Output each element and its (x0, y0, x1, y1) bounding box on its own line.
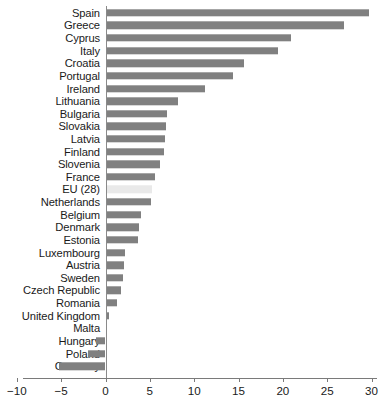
bar-label-portugal: Portugal (59, 70, 100, 82)
bar-label-malta: Malta (73, 322, 100, 334)
bar-sweden (106, 274, 124, 281)
bar-label-sweden: Sweden (60, 272, 100, 284)
bar-label-estonia: Estonia (63, 234, 100, 246)
bar-poland (88, 350, 106, 357)
bar-lithuania (106, 97, 179, 104)
bar-row: Netherlands (0, 196, 390, 209)
bar-row: Italy (0, 44, 390, 57)
bar-spain (106, 9, 369, 16)
bar-eu-28 (106, 186, 152, 193)
x-tick-mark (372, 378, 373, 382)
bar-row: Poland (0, 347, 390, 360)
bar-france (106, 173, 156, 180)
bar-label-luxembourg: Luxembourg (39, 247, 100, 259)
bar-row: Luxembourg (0, 246, 390, 259)
bar-row: Hungary (0, 335, 390, 348)
bar-italy (106, 47, 278, 54)
bar-label-finland: Finland (64, 146, 100, 158)
bar-row: Czech Republic (0, 284, 390, 297)
bar-row: Romania (0, 297, 390, 310)
x-tick-label: −5 (55, 384, 68, 398)
bar-row: Denmark (0, 221, 390, 234)
x-tick-label: 25 (321, 384, 334, 398)
bar-label-bulgaria: Bulgaria (60, 108, 100, 120)
bar-denmark (106, 224, 140, 231)
bar-row: Germany (0, 360, 390, 373)
bar-label-hungary: Hungary (58, 335, 100, 347)
bar-belgium (106, 211, 141, 218)
bar-label-romania: Romania (56, 297, 100, 309)
bar-row: Belgium (0, 208, 390, 221)
bar-label-netherlands: Netherlands (41, 196, 100, 208)
bar-row: Greece (0, 19, 390, 32)
bar-cyprus (106, 34, 291, 41)
bar-row: Cyprus (0, 32, 390, 45)
bar-label-cyprus: Cyprus (65, 32, 100, 44)
bar-croatia (106, 60, 244, 67)
x-tick-mark (239, 378, 240, 382)
bar-latvia (106, 135, 165, 142)
plot-area: SpainGreeceCyprusItalyCroatiaPortugalIre… (0, 0, 390, 406)
x-tick-mark (17, 378, 18, 382)
x-tick-label: 30 (365, 384, 378, 398)
bar-row: Spain (0, 7, 390, 20)
bar-label-czech-republic: Czech Republic (23, 284, 100, 296)
bar-finland (106, 148, 165, 155)
bar-row: Latvia (0, 133, 390, 146)
bar-bulgaria (106, 110, 167, 117)
x-tick-label: 20 (276, 384, 289, 398)
bar-row: Austria (0, 259, 390, 272)
x-tick-label: 10 (188, 384, 201, 398)
bar-czech-republic (106, 287, 122, 294)
bar-row: Portugal (0, 70, 390, 83)
bar-row: Finland (0, 145, 390, 158)
bar-portugal (106, 72, 234, 79)
bar-label-slovakia: Slovakia (59, 120, 101, 132)
x-tick-label: 0 (102, 384, 108, 398)
bar-label-denmark: Denmark (55, 221, 100, 233)
x-tick-label: 5 (147, 384, 153, 398)
x-tick-mark (194, 378, 195, 382)
bar-label-ireland: Ireland (66, 83, 100, 95)
zero-axis-line (106, 6, 107, 378)
bar-row: Slovakia (0, 120, 390, 133)
bar-label-latvia: Latvia (71, 133, 100, 145)
bar-label-austria: Austria (66, 259, 100, 271)
x-tick-mark (283, 378, 284, 382)
bar-ireland (106, 85, 205, 92)
bar-row: Bulgaria (0, 107, 390, 120)
x-tick-mark (61, 378, 62, 382)
bar-label-greece: Greece (64, 19, 100, 31)
bar-greece (106, 22, 345, 29)
bar-chart: SpainGreeceCyprusItalyCroatiaPortugalIre… (0, 0, 390, 406)
bar-row: Malta (0, 322, 390, 335)
bar-label-united-kingdom: United Kingdom (22, 310, 100, 322)
bar-row: Croatia (0, 57, 390, 70)
bar-romania (106, 299, 118, 306)
bar-row: Estonia (0, 234, 390, 247)
x-tick-mark (150, 378, 151, 382)
bar-netherlands (106, 198, 151, 205)
bar-row: United Kingdom (0, 309, 390, 322)
bar-hungary (96, 337, 106, 344)
bar-austria (106, 261, 125, 268)
bar-row: Ireland (0, 82, 390, 95)
bar-label-lithuania: Lithuania (55, 95, 100, 107)
bar-row: Lithuania (0, 95, 390, 108)
bar-label-croatia: Croatia (65, 57, 100, 69)
x-axis-line (23, 378, 378, 379)
bar-label-spain: Spain (72, 7, 100, 19)
bar-row: France (0, 171, 390, 184)
bar-label-slovenia: Slovenia (58, 158, 100, 170)
x-tick-label: 15 (232, 384, 245, 398)
x-tick-mark (106, 378, 107, 382)
bar-luxembourg (106, 249, 126, 256)
bar-row: Sweden (0, 272, 390, 285)
bar-label-belgium: Belgium (60, 209, 100, 221)
bar-row: Slovenia (0, 158, 390, 171)
bar-row: EU (28) (0, 183, 390, 196)
bar-slovenia (106, 161, 160, 168)
bar-label-italy: Italy (80, 45, 100, 57)
bar-slovakia (106, 123, 166, 130)
bar-label-eu-28: EU (28) (62, 183, 100, 195)
